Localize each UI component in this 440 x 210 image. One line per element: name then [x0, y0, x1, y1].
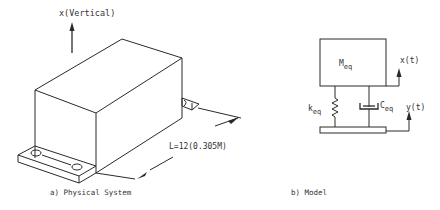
mass-displacement-leader: [386, 76, 399, 86]
physical-system: x(Vertical): [18, 8, 241, 197]
base-displacement-leader: [386, 118, 409, 131]
spring: [332, 86, 338, 127]
caption-model: b) Model: [291, 188, 327, 197]
left-base-flange: [18, 146, 96, 183]
model: Meq x(t) keq Ceq y(t) b) M: [291, 39, 425, 197]
figure: x(Vertical): [0, 0, 440, 210]
vertical-arrow-icon: [70, 22, 75, 53]
dimension-arrow-icon: [228, 117, 239, 124]
base-displacement-label: y(t): [406, 103, 425, 112]
base-plate: [320, 127, 386, 133]
mounting-hole: [31, 150, 41, 156]
mass-displacement-label: x(t): [400, 56, 419, 65]
caption-physical-system: a) Physical System: [50, 188, 132, 197]
spring-label: keq: [308, 104, 321, 116]
dimension-label: L=12(0.305M): [169, 142, 227, 151]
dimension-arrow-icon: [137, 172, 147, 179]
damper: [360, 86, 378, 127]
right-base-flange: [182, 98, 199, 110]
mounting-hole: [72, 164, 82, 170]
vertical-axis-label: x(Vertical): [59, 8, 115, 18]
damper-label: Ceq: [380, 101, 393, 113]
mass-label: Meq: [339, 59, 352, 71]
up-arrow-icon: [397, 68, 402, 77]
mass-block: [320, 39, 386, 86]
up-arrow-icon: [407, 111, 412, 120]
